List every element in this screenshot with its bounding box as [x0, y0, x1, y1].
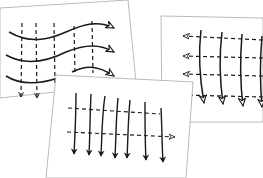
- front-card: [46, 75, 193, 178]
- sketch-cards-diagram: [0, 0, 263, 178]
